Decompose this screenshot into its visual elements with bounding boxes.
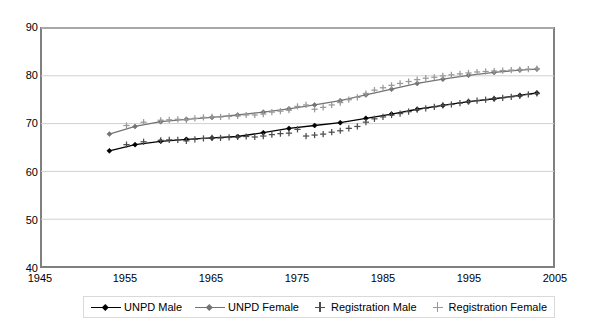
legend-label-registration-male: Registration Male bbox=[331, 301, 417, 313]
chart-legend: UNPD Male UNPD Female Registration Male … bbox=[83, 296, 555, 318]
legend-label-registration-female: Registration Female bbox=[449, 301, 547, 313]
plot-svg bbox=[0, 0, 596, 325]
plus-marker-icon bbox=[430, 302, 446, 313]
series-registration-female bbox=[123, 66, 540, 129]
legend-item-unpd-female: UNPD Female bbox=[195, 297, 299, 317]
series-unpd-male bbox=[107, 91, 540, 154]
legend-label-unpd-female: UNPD Female bbox=[228, 301, 299, 313]
life-expectancy-chart: 90 80 70 60 50 40 1945 1955 1965 1975 19… bbox=[0, 0, 596, 325]
line-diamond-icon bbox=[91, 302, 121, 313]
plus-marker-icon bbox=[312, 302, 328, 313]
legend-item-registration-female: Registration Female bbox=[430, 297, 547, 317]
line-diamond-icon bbox=[195, 302, 225, 313]
legend-label-unpd-male: UNPD Male bbox=[124, 301, 182, 313]
legend-item-unpd-male: UNPD Male bbox=[91, 297, 182, 317]
series-unpd-female bbox=[107, 67, 540, 137]
legend-item-registration-male: Registration Male bbox=[312, 297, 417, 317]
